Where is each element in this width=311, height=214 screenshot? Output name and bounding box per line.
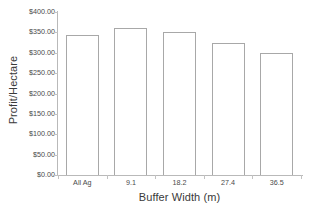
y-axis-tick-label: $400.00 [14,8,55,16]
bar [66,35,99,175]
x-axis-tick-label: 9.1 [126,178,136,187]
y-axis-tick-label: $150.00 [14,110,55,118]
x-axis-tick-mark [301,175,302,179]
y-axis-tick-mark [54,32,58,33]
y-axis-tick-mark [54,155,58,156]
y-axis-tick-label: $250.00 [14,69,55,77]
y-axis-tick-mark [54,12,58,13]
bar [163,32,196,175]
y-axis-tick-label: $200.00 [14,90,55,98]
y-axis-tick-label: $100.00 [14,130,55,138]
y-axis-tick-label: $50.00 [14,151,55,159]
y-axis-tick-mark [54,114,58,115]
y-axis-tick-mark [54,134,58,135]
y-axis-tick-mark [54,94,58,95]
y-axis-tick-mark [54,73,58,74]
bar [114,28,147,175]
y-axis-tick-label: $300.00 [14,49,55,57]
x-axis-tick-label: 18.2 [173,178,187,187]
y-axis-tick-labels: $0.00$50.00$100.00$150.00$200.00$250.00$… [14,7,55,177]
y-axis-tick-label: $0.00 [14,171,55,179]
x-axis-line [53,175,303,176]
x-axis-title: Buffer Width (m) [58,191,301,203]
x-axis-tick-labels: All Ag9.118.227.436.5 [58,178,301,190]
plot-area [58,12,301,175]
x-axis-tick-label: 36.5 [270,178,284,187]
x-axis-tick-label: 27.4 [221,178,235,187]
y-axis-tick-label: $350.00 [14,28,55,36]
y-axis-tick-mark [54,53,58,54]
bar [212,43,245,175]
bar [260,53,293,175]
bar-chart: Profit/Hectare $0.00$50.00$100.00$150.00… [0,0,311,214]
x-axis-tick-label: All Ag [73,178,91,187]
